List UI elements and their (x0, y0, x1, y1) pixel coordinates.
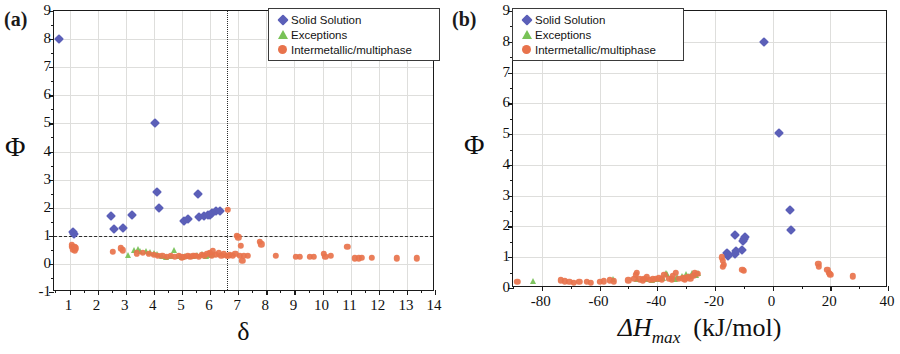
panel-b: (b) ΔHmax (kJ/mol) Φ Solid SolutionExcep… (450, 0, 900, 354)
x-axis-tick (379, 290, 380, 295)
x-axis-tick (294, 290, 295, 295)
data-point-solid-solution (740, 238, 747, 245)
gridline-horizontal (54, 152, 433, 153)
data-point-intermetallic (235, 234, 241, 240)
x-axis-tick (70, 290, 71, 295)
x-axis-minor-tick (393, 290, 394, 293)
x-axis-tick-label: 9 (290, 297, 298, 314)
legend-item-label: Intermetallic/multiphase (291, 44, 412, 56)
legend-item-label: Exceptions (291, 29, 347, 41)
reference-line-horizontal (54, 236, 433, 237)
data-point-intermetallic (311, 253, 317, 259)
x-axis-tick (182, 290, 183, 295)
gridline-horizontal (54, 95, 433, 96)
x-axis-tick (98, 290, 99, 295)
x-axis-tick-label: 13 (398, 297, 413, 314)
legend-symbol (518, 45, 535, 54)
y-axis-minor-tick (510, 150, 513, 151)
data-point-solid-solution (761, 38, 768, 45)
x-axis-tick (888, 286, 889, 291)
x-axis-minor-tick (571, 286, 572, 289)
x-axis-minor-tick (252, 290, 253, 293)
reference-line-vertical (227, 11, 228, 290)
x-axis-tick (407, 290, 408, 295)
x-axis-tick-label: 20 (822, 293, 837, 310)
gridline-vertical (126, 11, 127, 290)
data-point-intermetallic (258, 241, 264, 247)
gridline-vertical (773, 11, 774, 286)
legend-item-label: Intermetallic/multiphase (535, 44, 656, 56)
x-axis-tick-label: -80 (531, 293, 551, 310)
data-point-solid-solution (184, 215, 191, 222)
y-axis-tick-label: 6 (0, 86, 51, 103)
data-point-intermetallic (694, 271, 700, 277)
legend-item: Exceptions (518, 27, 677, 42)
circle-marker-icon (522, 45, 531, 54)
x-axis-minor-tick (513, 286, 514, 289)
x-axis-minor-tick (802, 286, 803, 289)
gridline-horizontal (513, 103, 886, 104)
legend-item: Exceptions (274, 27, 433, 42)
x-axis-tick (657, 286, 658, 291)
y-axis-tick-label: 9 (450, 2, 510, 19)
data-point-solid-solution (787, 226, 794, 233)
y-axis-minor-tick (51, 250, 54, 251)
x-axis-tick-label: 8 (262, 297, 270, 314)
y-axis-minor-tick (51, 166, 54, 167)
legend-symbol (274, 30, 291, 39)
gridline-horizontal (54, 67, 433, 68)
y-axis-minor-tick (51, 278, 54, 279)
x-axis-tick (154, 290, 155, 295)
y-axis-minor-tick (510, 242, 513, 243)
data-point-solid-solution (739, 246, 746, 253)
data-point-intermetallic (611, 278, 617, 284)
y-axis-minor-tick (51, 81, 54, 82)
y-axis-tick-label: 8 (0, 30, 51, 47)
x-axis-title-b: ΔHmax (kJ/mol) (618, 313, 782, 348)
x-axis-tick-label: 1 (65, 297, 73, 314)
y-axis-tick-label: 5 (450, 125, 510, 142)
y-axis-tick-label: 2 (0, 198, 51, 215)
diamond-marker-icon (521, 14, 532, 25)
x-axis-tick-label: 10 (314, 297, 329, 314)
x-axis-tick (600, 286, 601, 291)
panel-a: (a) δ Φ Solid SolutionExceptionsIntermet… (0, 0, 450, 354)
x-axis-minor-tick (309, 290, 310, 293)
y-axis-tick-label: 3 (0, 170, 51, 187)
x-axis-minor-tick (112, 290, 113, 293)
legend-b: Solid SolutionExceptionsIntermetallic/mu… (512, 8, 684, 61)
data-point-intermetallic (110, 249, 116, 255)
x-axis-tick-label: -60 (589, 293, 609, 310)
data-point-intermetallic (394, 255, 400, 261)
x-axis-tick (435, 290, 436, 295)
x-axis-minor-tick (84, 290, 85, 293)
y-axis-minor-tick (51, 222, 54, 223)
x-axis-tick-label: -40 (646, 293, 666, 310)
data-point-intermetallic (72, 245, 78, 251)
data-point-intermetallic (273, 253, 279, 259)
x-axis-tick (715, 286, 716, 291)
y-axis-minor-tick (51, 25, 54, 26)
x-axis-tick (830, 286, 831, 291)
y-axis-minor-tick (510, 180, 513, 181)
data-point-intermetallic (413, 255, 419, 261)
x-axis-minor-tick (421, 290, 422, 293)
x-axis-tick-label: 7 (233, 297, 241, 314)
legend-item-label: Exceptions (535, 29, 591, 41)
data-point-solid-solution (55, 36, 62, 43)
data-point-intermetallic (827, 272, 833, 278)
x-axis-tick (126, 290, 127, 295)
data-point-solid-solution (110, 225, 117, 232)
gridline-horizontal (513, 196, 886, 197)
gridline-vertical (715, 11, 716, 286)
legend-item: Solid Solution (274, 12, 433, 27)
x-axis-tick (351, 290, 352, 295)
data-point-intermetallic (359, 254, 365, 260)
y-axis-tick-label: 4 (0, 142, 51, 159)
y-axis-tick-label: 7 (450, 63, 510, 80)
data-point-solid-solution (154, 189, 161, 196)
gridline-horizontal (513, 226, 886, 227)
x-axis-minor-tick (196, 290, 197, 293)
x-axis-tick (323, 290, 324, 295)
legend-item-label: Solid Solution (291, 14, 361, 26)
